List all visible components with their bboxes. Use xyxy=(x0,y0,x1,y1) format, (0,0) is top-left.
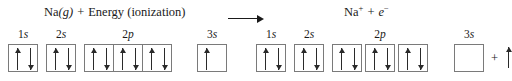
arrow-tip xyxy=(301,48,307,53)
electron-arrow-down xyxy=(417,48,424,70)
electron-arrow-down xyxy=(103,48,110,70)
arrow-tip xyxy=(133,65,139,70)
box-set-1s-ion xyxy=(256,44,286,72)
subshell-1s-ion: 1s xyxy=(256,28,286,72)
arrow-tip xyxy=(204,48,210,53)
box-set-1s-atom xyxy=(8,44,38,72)
arrow-tip xyxy=(120,48,126,53)
orbital-box xyxy=(84,44,114,72)
electron-arrow-up xyxy=(203,48,210,70)
arrow-tip xyxy=(506,47,512,52)
electron-arrow-up xyxy=(90,48,97,70)
orbital-box xyxy=(142,44,172,72)
orbital-box xyxy=(398,44,428,72)
orbital-diagram-na-ion: 1s 2s 2p xyxy=(256,28,512,72)
reactant-species: Na xyxy=(44,5,59,19)
equation-reactants: Na(g)+Energy (ionization) xyxy=(44,5,186,19)
electron-arrow-down xyxy=(27,48,34,70)
arrow-tip xyxy=(339,48,345,53)
subshell-label-2p-ion: 2p xyxy=(374,28,386,41)
orbital-box xyxy=(8,44,38,72)
electron-arrow-up xyxy=(14,48,21,70)
orbital-box xyxy=(46,44,76,72)
ejected-electron-group: + xyxy=(491,47,512,72)
arrow-tip xyxy=(385,65,391,70)
subshell-l-2p-atom: p xyxy=(128,28,134,40)
box-set-3s-ion xyxy=(454,44,484,72)
orbital-box xyxy=(113,44,143,72)
orbital-diagram-na-atom: 1s 2s 2p xyxy=(8,28,227,72)
electron-arrow-down xyxy=(313,48,320,70)
electron-arrow-down xyxy=(132,48,139,70)
subshell-label-2s-atom: 2s xyxy=(56,28,66,41)
arrow-tip xyxy=(263,48,269,53)
reaction-equation: Na(g)+Energy (ionization) Na++e− xyxy=(0,3,503,23)
reactant-state: (g) xyxy=(59,5,74,19)
orbital-box xyxy=(197,44,227,72)
product-electron-charge: − xyxy=(384,3,389,13)
orbital-box xyxy=(332,44,362,72)
arrow-tip xyxy=(53,48,59,53)
subshell-l-3s-ion: s xyxy=(470,28,474,40)
electron-arrow-up xyxy=(404,48,411,70)
subshell-1s-atom: 1s xyxy=(8,28,38,72)
equation-plus-left: + xyxy=(73,5,88,19)
box-set-2s-atom xyxy=(46,44,76,72)
reaction-arrow-icon xyxy=(228,14,264,23)
orbital-box xyxy=(294,44,324,72)
subshell-l-3s-atom: s xyxy=(213,28,217,40)
arrow-tip xyxy=(372,48,378,53)
equation-plus-right: + xyxy=(363,5,378,19)
subshell-label-3s-atom: 3s xyxy=(207,28,217,41)
box-set-2p-ion xyxy=(332,44,428,72)
energy-term: Energy (ionization) xyxy=(88,5,185,19)
arrow-tip xyxy=(418,65,424,70)
arrow-tip xyxy=(162,65,168,70)
box-set-3s-atom xyxy=(197,44,227,72)
arrow-tip xyxy=(104,65,110,70)
subshell-label-2p-atom: 2p xyxy=(122,28,134,41)
arrow-tip xyxy=(28,65,34,70)
electron-arrow-down xyxy=(351,48,358,70)
ejected-plus-sign: + xyxy=(491,52,498,64)
electron-arrow-up xyxy=(371,48,378,70)
arrow-tip xyxy=(15,48,21,53)
subshell-label-2s-ion: 2s xyxy=(304,28,314,41)
subshell-l-2s-atom: s xyxy=(62,28,66,40)
electron-arrow-up xyxy=(52,48,59,70)
arrow-shaft xyxy=(228,18,260,19)
electron-arrow-up xyxy=(262,48,269,70)
arrow-tip xyxy=(314,65,320,70)
subshell-l-1s-ion: s xyxy=(272,28,276,40)
product-ion-symbol: Na xyxy=(344,5,359,19)
electron-arrow-down xyxy=(65,48,72,70)
electron-arrow-down xyxy=(161,48,168,70)
electron-arrow-up xyxy=(300,48,307,70)
box-set-2s-ion xyxy=(294,44,324,72)
subshell-label-3s-ion: 3s xyxy=(464,28,474,41)
orbital-box xyxy=(365,44,395,72)
subshell-l-2s-ion: s xyxy=(310,28,314,40)
subshell-l-2p-ion: p xyxy=(380,28,386,40)
electron-arrow-up xyxy=(338,48,345,70)
electron-arrow-down xyxy=(384,48,391,70)
arrow-head xyxy=(257,15,264,23)
subshell-3s-atom: 3s xyxy=(197,28,227,72)
arrow-tip xyxy=(352,65,358,70)
subshell-l-1s-atom: s xyxy=(24,28,28,40)
arrow-tip xyxy=(66,65,72,70)
subshell-label-1s-ion: 1s xyxy=(266,28,276,41)
arrow-tip xyxy=(405,48,411,53)
electron-arrow-down xyxy=(275,48,282,70)
subshell-2s-ion: 2s xyxy=(294,28,324,72)
subshell-2p-atom: 2p xyxy=(84,28,172,72)
box-set-2p-atom xyxy=(84,44,172,72)
orbital-box-empty xyxy=(454,44,484,72)
electron-arrow-up xyxy=(119,48,126,70)
equation-products: Na++e− xyxy=(344,5,389,19)
ejected-electron-arrow-up xyxy=(505,47,512,68)
orbital-diagrams: 1s 2s 2p xyxy=(0,28,503,81)
orbital-box xyxy=(256,44,286,72)
arrow-tip xyxy=(149,48,155,53)
subshell-3s-ion: 3s xyxy=(454,28,484,72)
